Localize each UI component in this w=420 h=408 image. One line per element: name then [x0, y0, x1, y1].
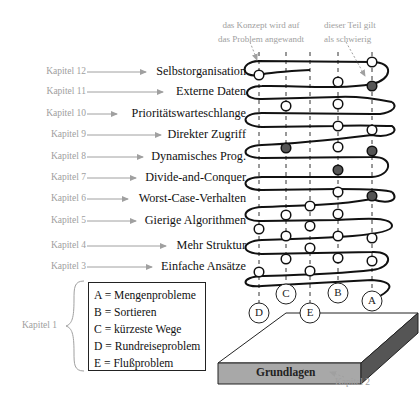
- node-k7-B-difficult: [333, 165, 343, 175]
- chapter-5-title: Gierige Algorithmen: [145, 213, 246, 228]
- node-k5-D: [254, 224, 264, 234]
- problem-letter-A: A: [362, 294, 382, 306]
- kapitel-12-label: Kapitel 12: [38, 66, 86, 76]
- node-k4-E: [305, 243, 315, 253]
- chapter-7-title: Divide-and-Conquer: [145, 170, 246, 185]
- chapter-3-title: Einfache Ansätze: [161, 259, 246, 274]
- legend-item-E: E = Flußproblem: [94, 355, 205, 372]
- node-k4-B: [333, 231, 343, 241]
- node-k10-B: [333, 99, 343, 109]
- base-platform: [218, 313, 418, 384]
- kapitel-1-label: Kapitel 1: [22, 320, 57, 330]
- chapter-8-title: Dynamisches Prog.: [151, 149, 246, 164]
- legend-item-C: C = kürzeste Wege: [94, 321, 205, 338]
- spiral-nodes: [254, 57, 377, 277]
- node-k5-C: [281, 210, 291, 220]
- kapitel-5-label: Kapitel 5: [38, 215, 86, 225]
- kapitel-4-label: Kapitel 4: [38, 240, 86, 250]
- problem-letter-E: E: [300, 306, 320, 318]
- difficult-note: dieser Teil gilt als schwierig: [324, 18, 400, 46]
- problem-letter-C: C: [276, 287, 296, 299]
- node-k5-B: [333, 209, 343, 219]
- node-k3-E: [305, 266, 315, 276]
- legend-item-B: B = Sortieren: [94, 304, 205, 321]
- node-k3-D: [254, 267, 264, 277]
- node-k4-C: [281, 231, 291, 241]
- node-k6-B: [333, 187, 343, 197]
- kapitel-2-label: Kapitel 2: [335, 377, 370, 387]
- legend-item-D: D = Rundreiseproblem: [94, 338, 205, 355]
- kapitel-11-label: Kapitel 11: [38, 86, 86, 96]
- chapter-6-title: Worst-Case-Verhalten: [139, 191, 246, 206]
- node-k9-B: [333, 121, 343, 131]
- node-k10-C: [281, 101, 291, 111]
- difficult-note-line2: als schwierig: [324, 32, 400, 46]
- node-k12-A: [367, 57, 377, 67]
- node-k3-B: [333, 253, 343, 263]
- spiral-diagram: das Konzept wird auf das Problem angewan…: [0, 0, 420, 408]
- kapitel-8-label: Kapitel 8: [38, 151, 86, 161]
- node-k11-B: [333, 77, 343, 87]
- node-k5-E: [305, 221, 315, 231]
- chapter-4-title: Mehr Struktur: [177, 238, 246, 253]
- problem-legend: A = Mengenprobleme B = Sortieren C = kür…: [88, 282, 206, 371]
- node-k4-A: [367, 233, 377, 243]
- kapitel-10-label: Kapitel 10: [38, 108, 86, 118]
- node-k3-A: [367, 256, 377, 266]
- kapitel-9-label: Kapitel 9: [38, 129, 86, 139]
- node-k6-A-difficult: [367, 191, 377, 201]
- kapitel-6-label: Kapitel 6: [38, 193, 86, 203]
- kapitel-7-label: Kapitel 7: [38, 172, 86, 182]
- problem-letter-B: B: [328, 286, 348, 298]
- node-k6-E: [305, 201, 315, 211]
- node-k12-D: [254, 70, 264, 80]
- legend-item-A: A = Mengenprobleme: [94, 287, 205, 304]
- node-k8-C-difficult: [281, 143, 291, 153]
- kapitel-3-label: Kapitel 3: [38, 261, 86, 271]
- difficult-note-line1: dieser Teil gilt: [324, 18, 400, 32]
- node-k9-A: [367, 125, 377, 135]
- chapter-12-title: Selbstorganisation: [156, 64, 246, 79]
- concept-note: das Konzept wird auf das Problem angewan…: [196, 18, 326, 46]
- concept-note-line1: das Konzept wird auf: [196, 18, 326, 32]
- legend-brace: [66, 281, 84, 371]
- node-k11-A-difficult: [367, 81, 377, 91]
- chapter-9-title: Direkter Zugriff: [167, 127, 246, 142]
- chapter-11-title: Externe Daten: [176, 84, 246, 99]
- concept-note-line2: das Problem angewandt: [196, 32, 326, 46]
- node-k8-B: [333, 142, 343, 152]
- node-k3-C: [281, 254, 291, 264]
- problem-letter-D: D: [249, 306, 269, 318]
- base-label: Grundlagen: [256, 366, 315, 378]
- chapter-10-title: Prioritätswarteschlange: [132, 106, 246, 121]
- node-k8-A-difficult: [367, 146, 377, 156]
